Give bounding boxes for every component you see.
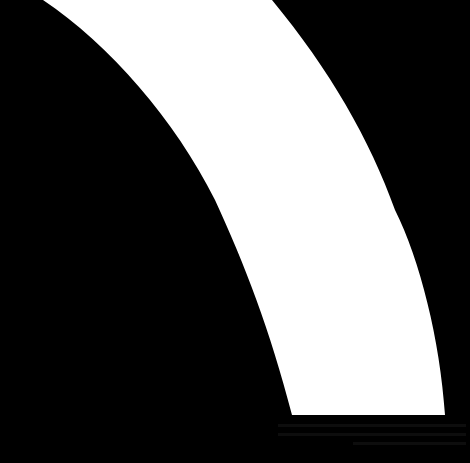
curved-white-band <box>0 0 470 463</box>
faint-text-line <box>278 433 466 436</box>
faint-text-block <box>278 420 466 460</box>
faint-text-line <box>353 442 466 445</box>
faint-text-line <box>278 424 466 427</box>
